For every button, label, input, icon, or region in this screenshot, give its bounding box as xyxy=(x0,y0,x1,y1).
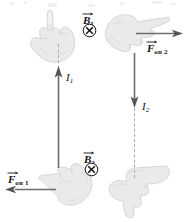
current-1-label: I1 xyxy=(66,68,73,85)
current-1-subscript: 1 xyxy=(70,77,74,85)
into-page-field-symbol-2-icon xyxy=(84,162,99,177)
force-on-1-symbol-group: F xyxy=(8,174,15,185)
hand-top-left-icon xyxy=(26,6,84,68)
force-on-2-subscript: on 2 xyxy=(154,48,167,56)
scan-artifact-top xyxy=(0,0,184,10)
force-on-1-subscript: on 1 xyxy=(15,179,28,187)
force-on-2-arrow xyxy=(136,28,184,39)
wire-2-dashed-segment xyxy=(134,108,135,178)
current-2-subscript: 2 xyxy=(146,106,150,114)
into-page-field-symbol-1-icon xyxy=(82,23,97,38)
vector-arrow-overbar-b1 xyxy=(82,11,93,15)
vector-arrow-overbar-f1 xyxy=(7,170,18,174)
physics-figure-two-parallel-wires: I1 I2 Fon 2 xyxy=(0,0,184,222)
current-2-label: I2 xyxy=(142,97,149,114)
force-on-2-symbol-group: F xyxy=(147,43,154,54)
wire-2-current-arrow-down xyxy=(129,52,140,110)
force-on-2-label: Fon 2 xyxy=(147,39,168,56)
force-on-1-label: Fon 1 xyxy=(8,170,29,187)
vector-arrow-overbar-f2 xyxy=(146,39,157,43)
wire-1-current-arrow-up xyxy=(53,64,64,170)
vector-arrow-overbar-b2 xyxy=(83,150,94,154)
hand-bottom-right-icon xyxy=(106,164,178,222)
